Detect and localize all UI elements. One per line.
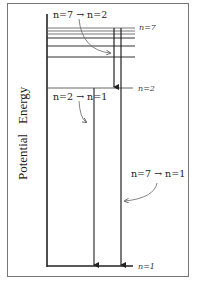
label-n7-to-n2: n=7 → n=2 [53, 9, 107, 20]
pointer-n7-n2 [79, 19, 110, 53]
energy-diagram: n=7 → n=2 n=2 → n=1 n=7 → n=1 n=7 n=2 n=… [0, 0, 198, 282]
level-label-n1: n=1 [138, 262, 155, 271]
y-axis-label: Potential Energy [15, 86, 30, 180]
label-n2-to-n1: n=2 → n=1 [53, 91, 107, 102]
energy-levels [47, 28, 135, 266]
pointer-n7-n1 [125, 183, 157, 201]
label-n7-to-n1: n=7 → n=1 [131, 168, 185, 179]
pointer-n2-n1 [79, 101, 86, 122]
level-label-n2: n=2 [138, 84, 155, 93]
level-label-n7: n=7 [139, 23, 157, 32]
